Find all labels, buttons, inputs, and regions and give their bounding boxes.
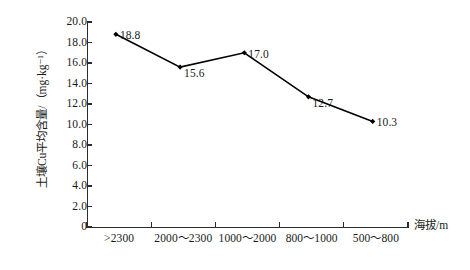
data-point-marker: [370, 119, 375, 124]
data-point-label: 10.3: [377, 117, 398, 129]
series-markers: [113, 32, 375, 124]
chart-figure: 土壤Cu平均含量/（mg·kg⁻¹） 海拔/m 02.04.06.08.010.…: [0, 0, 470, 270]
data-point-label: 12.7: [312, 98, 333, 110]
series-line-layer: [0, 0, 470, 270]
data-point-label: 17.0: [248, 49, 269, 61]
series-polyline: [116, 34, 373, 121]
data-point-label: 18.8: [120, 30, 141, 42]
data-point-label: 15.6: [184, 68, 205, 80]
